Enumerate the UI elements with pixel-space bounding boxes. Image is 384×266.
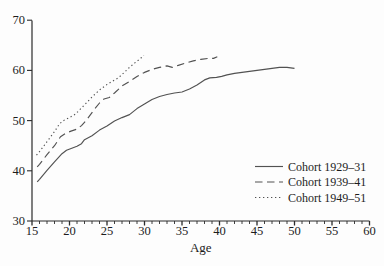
- x-tick-label: 45: [251, 224, 264, 238]
- x-tick-label: 60: [363, 224, 376, 238]
- chart-figure: 304050607015202530354045505560AgeCohort …: [0, 0, 384, 266]
- cohort-line-chart: 304050607015202530354045505560AgeCohort …: [0, 0, 384, 266]
- x-tick-label: 40: [213, 224, 226, 238]
- y-tick-label: 30: [13, 214, 26, 228]
- series-line-dashed: [37, 57, 217, 167]
- x-tick-label: 20: [63, 224, 76, 238]
- legend-label: Cohort 1929–31: [288, 160, 366, 174]
- x-tick-label: 15: [26, 224, 39, 238]
- legend-label: Cohort 1939–41: [288, 175, 366, 189]
- x-tick-label: 25: [101, 224, 114, 238]
- legend-label: Cohort 1949–51: [288, 191, 366, 205]
- y-tick-label: 40: [13, 164, 26, 178]
- x-tick-label: 30: [138, 224, 151, 238]
- y-tick-label: 60: [13, 63, 26, 77]
- series-line-dotted: [37, 55, 144, 155]
- series-line-solid: [37, 67, 294, 181]
- y-tick-label: 50: [13, 114, 26, 128]
- x-tick-label: 50: [288, 224, 301, 238]
- x-tick-label: 35: [176, 224, 189, 238]
- x-axis-title: Age: [190, 240, 212, 255]
- x-tick-label: 55: [326, 224, 339, 238]
- y-tick-label: 70: [13, 13, 26, 27]
